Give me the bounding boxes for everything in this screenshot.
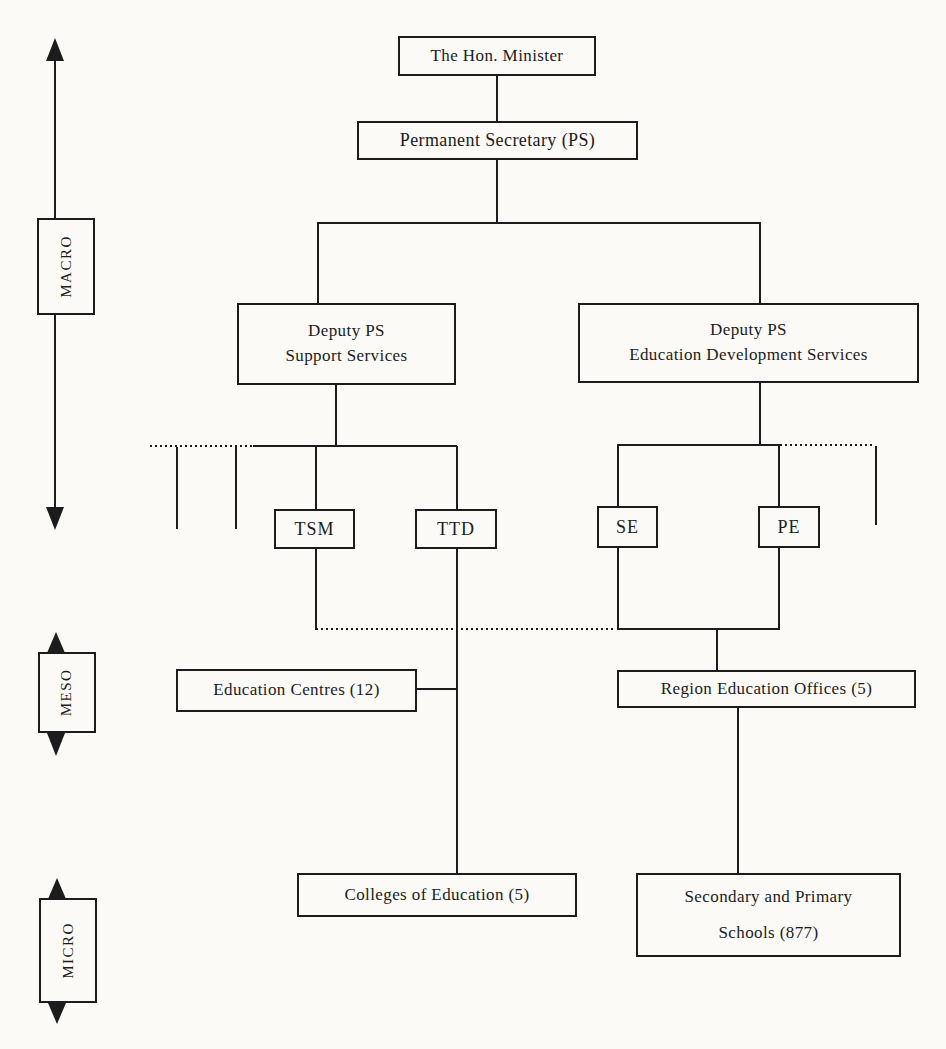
node-region-education-offices: Region Education Offices (5): [617, 670, 916, 708]
node-permanent-secretary: Permanent Secretary (PS): [357, 121, 638, 160]
deputy-support-line2: Support Services: [285, 344, 407, 369]
meso-arrow-down-icon: [47, 733, 65, 756]
schools-line1: Secondary and Primary: [685, 879, 853, 915]
micro-arrow-down-icon: [48, 1003, 66, 1024]
node-secondary-primary-schools: Secondary and Primary Schools (877): [636, 873, 901, 957]
micro-arrow-up-icon: [48, 878, 66, 899]
node-pe-label: PE: [777, 514, 800, 540]
level-label-micro-text: MICRO: [60, 922, 77, 979]
node-pe: PE: [758, 506, 820, 548]
node-se: SE: [597, 506, 658, 548]
node-education-centres-label: Education Centres (12): [213, 678, 379, 703]
node-minister-label: The Hon. Minister: [431, 44, 564, 69]
deputy-support-line1: Deputy PS: [308, 319, 385, 344]
node-deputy-ps-education-development: Deputy PS Education Development Services: [578, 303, 919, 383]
org-chart-page: The Hon. Minister Permanent Secretary (P…: [0, 0, 946, 1049]
node-ttd-label: TTD: [437, 516, 475, 542]
macro-arrow-down-icon: [46, 507, 64, 530]
level-label-meso-text: MESO: [59, 669, 76, 717]
deputy-education-line2: Education Development Services: [629, 343, 868, 368]
level-label-micro: MICRO: [39, 898, 97, 1003]
macro-arrow-up-icon: [46, 38, 64, 61]
node-colleges-of-education-label: Colleges of Education (5): [344, 883, 529, 908]
node-region-education-offices-label: Region Education Offices (5): [661, 677, 873, 702]
node-deputy-ps-support-services: Deputy PS Support Services: [237, 303, 456, 385]
node-education-centres: Education Centres (12): [176, 669, 417, 712]
node-tsm: TSM: [274, 509, 355, 549]
level-label-meso: MESO: [38, 652, 96, 733]
node-se-label: SE: [616, 514, 639, 540]
level-label-macro-text: MACRO: [58, 235, 75, 298]
node-minister: The Hon. Minister: [398, 36, 596, 76]
deputy-education-line1: Deputy PS: [710, 318, 787, 343]
node-colleges-of-education: Colleges of Education (5): [297, 873, 577, 917]
meso-arrow-up-icon: [47, 632, 65, 653]
node-permanent-secretary-label: Permanent Secretary (PS): [400, 127, 596, 153]
schools-line2: Schools (877): [718, 915, 818, 951]
node-ttd: TTD: [415, 509, 497, 549]
level-label-macro: MACRO: [37, 218, 95, 315]
node-tsm-label: TSM: [294, 516, 334, 542]
